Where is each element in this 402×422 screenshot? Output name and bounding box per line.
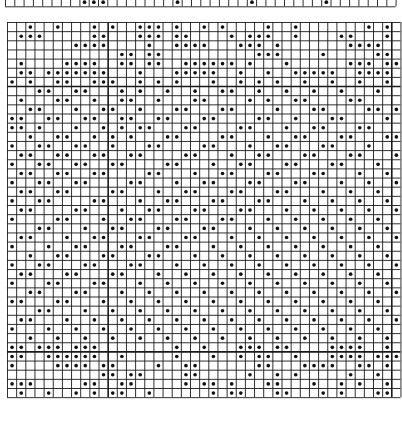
dot-marker: [129, 327, 133, 331]
dot-marker: [376, 245, 380, 249]
dot-marker: [324, 0, 328, 4]
dot-marker: [202, 144, 206, 148]
dot-marker: [74, 245, 78, 249]
dot-marker: [358, 309, 362, 313]
dot-marker: [147, 172, 151, 176]
dot-marker: [212, 62, 216, 66]
dot-marker: [367, 208, 371, 212]
dot-marker: [29, 172, 33, 176]
dot-marker: [221, 309, 225, 313]
dot-marker: [19, 345, 23, 349]
dot-marker: [147, 44, 151, 48]
dot-marker: [129, 373, 133, 377]
dot-marker: [120, 53, 124, 57]
dot-marker: [349, 34, 353, 38]
dot-marker: [303, 309, 307, 313]
dot-marker: [367, 236, 371, 240]
dot-marker: [385, 382, 389, 386]
dot-marker: [129, 181, 133, 185]
dot-marker: [56, 117, 60, 121]
dot-marker: [166, 245, 170, 249]
dot-marker: [47, 345, 51, 349]
dot-marker: [193, 190, 197, 194]
dot-marker: [385, 53, 389, 57]
dot-marker: [202, 62, 206, 66]
dot-marker: [330, 117, 334, 121]
main-dot-grid-chart: [7, 22, 402, 399]
dot-marker: [248, 309, 252, 313]
dot-marker: [56, 217, 60, 221]
dot-marker: [276, 44, 280, 48]
dot-marker: [19, 318, 23, 322]
dot-marker: [202, 318, 206, 322]
dot-marker: [157, 227, 161, 231]
dot-marker: [175, 263, 179, 267]
dot-marker: [38, 309, 42, 313]
dot-marker: [74, 44, 78, 48]
dot-marker: [111, 364, 115, 368]
dot-marker: [147, 25, 151, 29]
dot-marker: [202, 382, 206, 386]
dot-marker: [29, 190, 33, 194]
dot-marker: [147, 53, 151, 57]
dot-marker: [56, 135, 60, 139]
dot-marker: [83, 181, 87, 185]
dot-marker: [257, 34, 261, 38]
dot-marker: [175, 34, 179, 38]
dot-marker: [157, 25, 161, 29]
dot-marker: [157, 117, 161, 121]
dot-marker: [19, 190, 23, 194]
dot-marker: [138, 373, 142, 377]
dot-marker: [202, 117, 206, 121]
dot-marker: [303, 254, 307, 258]
dot-marker: [38, 345, 42, 349]
dot-marker: [65, 62, 69, 66]
dot-marker: [138, 309, 142, 313]
dot-marker: [83, 382, 87, 386]
dot-marker: [376, 272, 380, 276]
dot-marker: [303, 227, 307, 231]
dot-marker: [47, 89, 51, 93]
dot-marker: [47, 391, 51, 395]
dot-marker: [395, 291, 399, 295]
dot-marker: [395, 236, 399, 240]
dot-marker: [330, 364, 334, 368]
dot-marker: [184, 217, 188, 221]
dot-marker: [212, 327, 216, 331]
dot-marker: [129, 135, 133, 139]
dot-marker: [221, 89, 225, 93]
dot-marker: [385, 117, 389, 121]
dot-marker: [65, 236, 69, 240]
dot-marker: [166, 309, 170, 313]
dot-marker: [385, 172, 389, 176]
dot-marker: [248, 34, 252, 38]
dot-marker: [157, 144, 161, 148]
dot-marker: [120, 208, 124, 212]
dot-marker: [157, 364, 161, 368]
dot-marker: [330, 309, 334, 313]
dot-marker: [294, 300, 298, 304]
dot-marker: [176, 0, 180, 4]
dot-marker: [285, 236, 289, 240]
dot-marker: [38, 144, 42, 148]
dot-marker: [166, 227, 170, 231]
dot-marker: [184, 108, 188, 112]
dot-marker: [239, 126, 243, 130]
dot-marker: [385, 254, 389, 258]
dot-marker: [276, 254, 280, 258]
dot-marker: [47, 355, 51, 359]
dot-marker: [276, 391, 280, 395]
dot-marker: [38, 108, 42, 112]
dot-marker: [376, 391, 380, 395]
dot-marker: [138, 236, 142, 240]
dot-marker: [19, 98, 23, 102]
dot-marker: [321, 108, 325, 112]
dot-marker: [19, 391, 23, 395]
dot-marker: [129, 62, 133, 66]
dot-marker: [93, 98, 97, 102]
dot-marker: [74, 355, 78, 359]
dot-marker: [303, 80, 307, 84]
dot-marker: [157, 62, 161, 66]
dot-marker: [83, 71, 87, 75]
dot-marker: [74, 327, 78, 331]
